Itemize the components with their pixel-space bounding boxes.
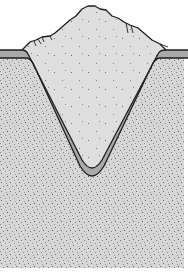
- trench-diagram: [0, 0, 188, 277]
- trench-cross-section: [0, 0, 188, 277]
